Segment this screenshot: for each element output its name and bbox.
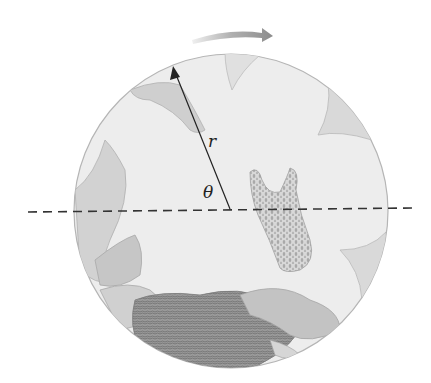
clockwise-arrow-icon bbox=[192, 28, 273, 44]
rotating-disk-figure: r θ bbox=[0, 0, 431, 383]
radius-label: r bbox=[208, 131, 217, 151]
lobe-right-upper bbox=[318, 80, 390, 140]
disk bbox=[74, 52, 390, 372]
angle-label: θ bbox=[203, 182, 213, 202]
